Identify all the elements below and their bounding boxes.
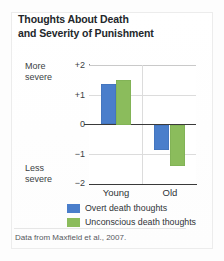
chart-title-line-2: and Severity of Punishment — [18, 27, 190, 41]
chart-title-line-1: Thoughts About Death — [18, 13, 129, 25]
x-axis-line — [89, 184, 197, 185]
y-tick-label-2: 0 — [65, 120, 85, 129]
bar-old-unconscious — [170, 125, 185, 167]
chart-page: Thoughts About Death and Severity of Pun… — [0, 0, 224, 261]
legend-item-overt: Overt death thoughts — [67, 202, 197, 214]
y-tick-label-1: +1 — [65, 91, 85, 100]
legend-swatch-icon-unconscious — [67, 218, 80, 227]
bar-old-overt — [154, 125, 169, 151]
legend-swatch-icon-overt — [67, 204, 80, 213]
y-axis-tick-labels: +2 +1 0 −1 −2 — [62, 65, 85, 184]
legend-item-unconscious: Unconscious death thoughts — [67, 216, 197, 228]
bar-young-overt — [101, 84, 116, 125]
chart-legend: Overt death thoughts Unconscious death t… — [67, 202, 197, 230]
y-tick-label-0: +2 — [65, 61, 85, 70]
legend-label-unconscious: Unconscious death thoughts — [85, 217, 196, 227]
y-tick-label-3: −1 — [65, 150, 85, 159]
x-label-old: Old — [143, 187, 197, 198]
x-label-young: Young — [89, 187, 143, 198]
plot-area — [89, 65, 196, 184]
y-tick-label-4: −2 — [65, 179, 85, 188]
legend-label-overt: Overt death thoughts — [85, 203, 167, 213]
page-title: Thoughts About Death and Severity of Pun… — [18, 13, 190, 40]
bar-young-unconscious — [116, 80, 131, 125]
source-divider — [14, 228, 186, 229]
x-axis-category-labels: Young Old — [89, 187, 197, 200]
source-note: Data from Maxfield et al., 2007. — [15, 233, 126, 242]
